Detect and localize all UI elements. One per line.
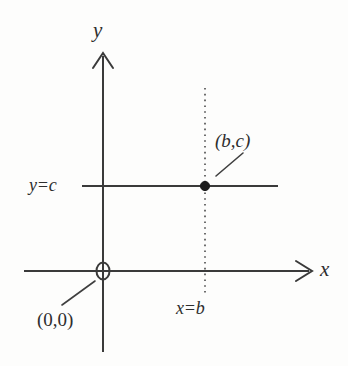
vertical-line-label: x=b (176, 299, 205, 317)
x-axis-label: x (320, 259, 329, 280)
y-axis-label: y (93, 20, 102, 41)
point-label-leader-line (216, 153, 243, 176)
origin-coordinate-label: (0,0) (37, 310, 73, 329)
point-marker-bc (200, 181, 209, 190)
point-coordinate-label: (b,c) (215, 131, 250, 150)
horizontal-line-label: y=c (29, 176, 57, 194)
coordinate-diagram: y x y=c x=b (b,c) (0,0) (0, 0, 348, 366)
origin-label-leader-line (62, 281, 95, 305)
